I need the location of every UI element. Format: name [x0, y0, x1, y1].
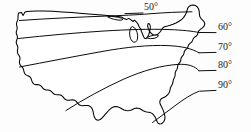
isotherm-label-60: 60° — [218, 22, 232, 32]
leader-line-50 — [125, 13, 143, 14]
isotherm-label-90: 90° — [218, 80, 232, 90]
leader-line-90 — [200, 90, 216, 91]
map-canvas — [0, 0, 251, 132]
isotherm-label-70: 70° — [218, 42, 232, 52]
isotherm-map-figure: 50° 60° 70° 80° 90° — [0, 0, 251, 132]
isotherm-label-50: 50° — [144, 2, 158, 12]
isotherm-label-80: 80° — [218, 60, 232, 70]
